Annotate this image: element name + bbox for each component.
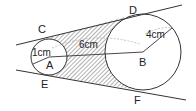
shaded-region (44, 15, 132, 89)
label-distance: 6cm (79, 39, 98, 50)
label-D: D (129, 4, 137, 16)
label-r-small: 1cm (32, 47, 51, 58)
label-C: C (38, 23, 46, 35)
label-E: E (41, 78, 48, 90)
label-A: A (46, 59, 54, 71)
label-B: B (139, 56, 146, 68)
label-F: F (134, 94, 141, 106)
tangent-circles-diagram: C D E F A B 1cm 6cm 4cm (0, 0, 196, 111)
label-r-large: 4cm (146, 29, 165, 40)
